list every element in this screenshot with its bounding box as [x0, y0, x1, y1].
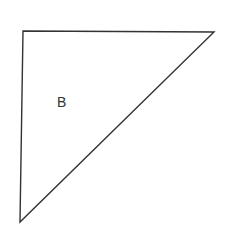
triangle-shape [20, 31, 214, 222]
diagram-canvas: B [0, 0, 226, 236]
triangle-label: B [57, 94, 66, 110]
